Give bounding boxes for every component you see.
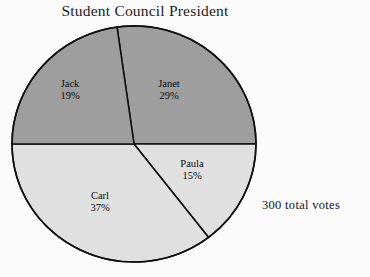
pie-chart-graphic <box>0 0 370 277</box>
pie-label-carl-percent: 37% <box>78 202 122 214</box>
pie-label-janet-name: Janet <box>145 78 193 90</box>
pie-label-carl-name: Carl <box>78 190 122 202</box>
pie-chart-figure: Student Council President Jack 19% Janet… <box>0 0 370 277</box>
pie-label-jack-name: Jack <box>48 78 92 90</box>
pie-label-paula-percent: 15% <box>168 170 216 182</box>
pie-label-janet: Janet 29% <box>145 78 193 101</box>
total-votes-annotation: 300 total votes <box>262 198 340 213</box>
pie-label-carl: Carl 37% <box>78 190 122 213</box>
pie-label-janet-percent: 29% <box>145 90 193 102</box>
pie-label-paula-name: Paula <box>168 158 216 170</box>
pie-label-jack-percent: 19% <box>48 90 92 102</box>
pie-label-jack: Jack 19% <box>48 78 92 101</box>
pie-label-paula: Paula 15% <box>168 158 216 181</box>
